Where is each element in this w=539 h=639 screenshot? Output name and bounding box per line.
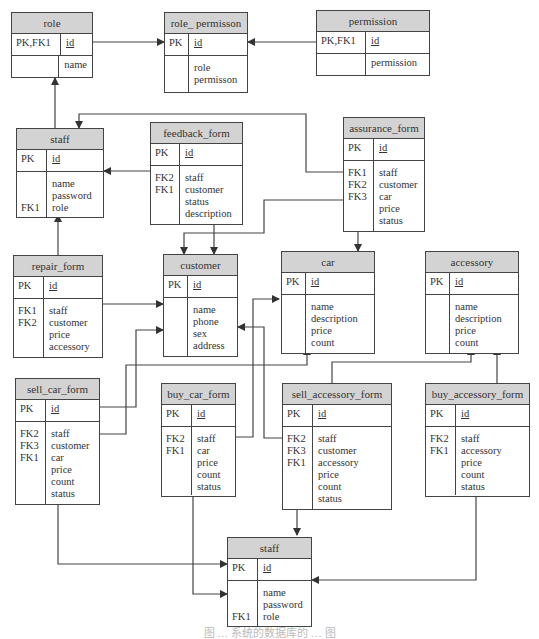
fk-keys bbox=[165, 56, 189, 92]
table-title: permission bbox=[317, 11, 429, 32]
fields: name password role bbox=[47, 172, 103, 217]
pk-field: id bbox=[374, 139, 424, 160]
pk-key: PK bbox=[14, 277, 44, 298]
fields: role permisson bbox=[189, 56, 247, 92]
table-title: sell_accessory_form bbox=[283, 384, 391, 405]
pk-key: PK bbox=[344, 139, 374, 160]
fk-keys bbox=[164, 298, 188, 356]
table-title: sell_car_form bbox=[16, 379, 99, 400]
pk-field: id bbox=[313, 405, 391, 426]
fields: name phone sex address bbox=[188, 298, 237, 356]
fields: permission bbox=[366, 54, 429, 75]
fields: staff customer status description bbox=[180, 166, 242, 224]
fields: name description price count bbox=[306, 295, 374, 353]
fk-keys: FK2 FK3 FK1 bbox=[283, 427, 313, 509]
table-staff-bottom[interactable]: staff PKid FK1name password role bbox=[227, 537, 312, 627]
table-title: repair_form bbox=[14, 256, 102, 277]
table-repair-form[interactable]: repair_form PKid FK1 FK2staff customer p… bbox=[13, 255, 103, 358]
pk-field: id bbox=[47, 150, 103, 171]
pk-field: id bbox=[192, 405, 235, 426]
fk-keys: FK2 FK3 FK1 bbox=[16, 422, 46, 504]
fields: staff accessory price count status bbox=[456, 427, 529, 496]
pk-field: id bbox=[189, 34, 247, 55]
table-title: customer bbox=[164, 255, 237, 276]
table-role-permission[interactable]: role_ permisson PKid role permisson bbox=[164, 12, 248, 93]
pk-key: PK bbox=[283, 405, 313, 426]
fk-keys bbox=[282, 295, 306, 353]
pk-field: id bbox=[44, 277, 102, 298]
table-sell-car-form[interactable]: sell_car_form PKid FK2 FK3 FK1staff cust… bbox=[15, 378, 100, 505]
fk-keys bbox=[12, 56, 59, 77]
pk-key: PK bbox=[228, 559, 258, 580]
pk-key: PK bbox=[151, 144, 180, 165]
figure-caption: 图 … 系统的数据库的 … 图 bbox=[0, 624, 539, 639]
fk-keys: FK1 bbox=[17, 172, 47, 217]
pk-field: id bbox=[61, 34, 92, 55]
table-staff-top[interactable]: staff PKid FK1name password role bbox=[16, 128, 104, 218]
fields: name password role bbox=[258, 581, 311, 626]
fields: name description price count bbox=[450, 295, 518, 353]
pk-key: PK,FK1 bbox=[317, 32, 366, 53]
pk-field: id bbox=[306, 273, 374, 294]
table-title: car bbox=[282, 252, 374, 273]
fields: staff customer accessory price count sta… bbox=[313, 427, 391, 509]
table-title: role_ permisson bbox=[165, 13, 247, 34]
fk-keys: FK2 FK1 bbox=[162, 427, 192, 495]
pk-key: PK bbox=[282, 273, 306, 294]
table-role[interactable]: role PK,FK1id name bbox=[11, 12, 93, 78]
pk-key: PK bbox=[16, 400, 46, 421]
table-title: assurance_form bbox=[344, 118, 424, 139]
pk-field: id bbox=[366, 32, 429, 53]
table-car[interactable]: car PKid name description price count bbox=[281, 251, 375, 354]
fk-keys: FK2 FK1 bbox=[151, 166, 180, 224]
fields: staff car price count status bbox=[192, 427, 235, 496]
pk-key: PK bbox=[17, 150, 47, 171]
table-title: staff bbox=[228, 538, 311, 559]
table-feedback-form[interactable]: feedback_form PKid FK2 FK1staff customer… bbox=[150, 122, 243, 225]
fields: staff customer price accessory bbox=[44, 299, 102, 357]
fields: staff customer car price count status bbox=[46, 422, 99, 504]
table-assurance-form[interactable]: assurance_form PKid FK1 FK2 FK3staff cus… bbox=[343, 117, 425, 232]
table-title: feedback_form bbox=[151, 123, 242, 144]
pk-key: PK bbox=[162, 405, 192, 426]
table-buy-accessory-form[interactable]: buy_accessory_form PKid FK2 FK1staff acc… bbox=[425, 383, 530, 497]
fk-keys bbox=[426, 295, 450, 353]
fk-keys: FK1 bbox=[228, 581, 258, 626]
pk-key: PK bbox=[164, 276, 188, 297]
pk-field: id bbox=[180, 144, 242, 165]
pk-field: id bbox=[46, 400, 99, 421]
fields: staff customer car price status bbox=[374, 161, 424, 231]
pk-key: PK bbox=[426, 405, 456, 426]
pk-key: PK,FK1 bbox=[12, 34, 61, 55]
pk-field: id bbox=[450, 273, 518, 294]
table-sell-accessory-form[interactable]: sell_accessory_form PKid FK2 FK3 FK1staf… bbox=[282, 383, 392, 510]
pk-field: id bbox=[456, 405, 529, 426]
table-title: buy_car_form bbox=[162, 384, 235, 405]
fk-keys: FK1 FK2 bbox=[14, 299, 44, 357]
table-buy-car-form[interactable]: buy_car_form PKid FK2 FK1staff car price… bbox=[161, 383, 236, 497]
table-title: accessory bbox=[426, 252, 518, 273]
table-title: role bbox=[12, 13, 92, 34]
fields: name bbox=[59, 56, 92, 77]
pk-field: id bbox=[258, 559, 311, 580]
fk-keys: FK1 FK2 FK3 bbox=[344, 161, 374, 231]
pk-key: PK bbox=[426, 273, 450, 294]
fk-keys bbox=[317, 54, 366, 75]
pk-field: id bbox=[188, 276, 237, 297]
table-title: staff bbox=[17, 129, 103, 150]
table-customer[interactable]: customer PKid name phone sex address bbox=[163, 254, 238, 357]
table-accessory[interactable]: accessory PKid name description price co… bbox=[425, 251, 519, 354]
table-permission[interactable]: permission PK,FK1id permission bbox=[316, 10, 430, 76]
table-title: buy_accessory_form bbox=[426, 384, 529, 405]
fk-keys: FK2 FK1 bbox=[426, 427, 456, 495]
pk-key: PK bbox=[165, 34, 189, 55]
